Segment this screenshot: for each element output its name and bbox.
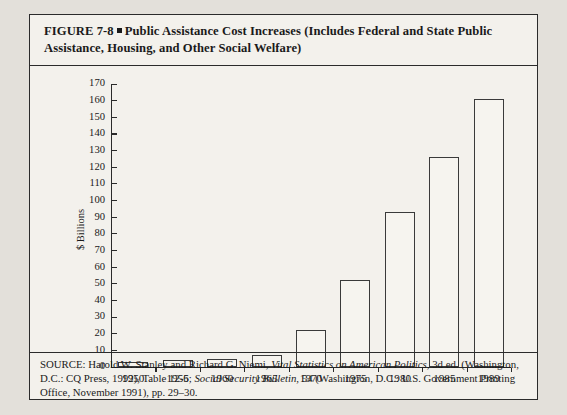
figure-label: FIGURE 7-8 [44, 24, 114, 38]
y-axis-tick-label: 120 [61, 162, 105, 173]
page-canvas: FIGURE 7-8Public Assistance Cost Increas… [0, 0, 567, 415]
y-axis-tick [111, 283, 117, 284]
y-axis-tick-label: 90 [61, 212, 105, 223]
y-axis-tick [111, 183, 117, 184]
y-axis-tick-label: 130 [61, 145, 105, 156]
y-axis-tick [111, 200, 117, 201]
figure-title-band: FIGURE 7-8Public Assistance Cost Increas… [30, 15, 537, 66]
y-axis-tick-label: 70 [61, 245, 105, 256]
y-axis-line [111, 84, 112, 368]
y-axis-tick-label: 50 [61, 278, 105, 289]
y-axis-tick-label: 100 [61, 195, 105, 206]
y-axis-tick [111, 150, 117, 151]
chart-plot-area: $ Billions 01020304050607080901001101201… [30, 66, 537, 352]
bar-1980 [385, 212, 415, 367]
y-axis-tick-label: 60 [61, 262, 105, 273]
y-axis-tick [111, 100, 117, 101]
y-axis-tick [111, 300, 117, 301]
y-axis-tick [111, 167, 117, 168]
y-axis-tick-label: 110 [61, 178, 105, 189]
y-axis-tick [111, 267, 117, 268]
y-axis-tick [111, 133, 117, 134]
bullet-square-icon [117, 28, 122, 33]
page-title: FIGURE 7-8Public Assistance Cost Increas… [44, 23, 523, 56]
y-axis-tick-label: 170 [61, 78, 105, 89]
source-prefix: SOURCE: Harold W. Stanley and Richard G.… [40, 358, 269, 370]
y-axis-tick-label: 30 [61, 311, 105, 322]
bar-1989 [474, 99, 504, 367]
source-work-title-2: Social Security Bulletin, [194, 372, 299, 384]
y-axis-tick-label: 20 [61, 328, 105, 339]
y-axis-tick-label: 160 [61, 95, 105, 106]
y-axis-tick [111, 217, 117, 218]
bar-1985 [429, 157, 459, 367]
y-axis-tick [111, 317, 117, 318]
source-work-title-1: Vital Statistics on American Politics, [271, 358, 429, 370]
figure-box: FIGURE 7-8Public Assistance Cost Increas… [29, 14, 538, 400]
y-axis-tick-label: 40 [61, 295, 105, 306]
y-axis-tick [111, 84, 117, 85]
source-text: SOURCE: Harold W. Stanley and Richard G.… [40, 358, 527, 399]
y-axis-tick [111, 250, 117, 251]
y-axis-tick [111, 333, 117, 334]
y-axis-tick-label: 150 [61, 112, 105, 123]
y-axis-tick-label: 80 [61, 228, 105, 239]
y-axis-tick-label: 140 [61, 128, 105, 139]
y-axis-tick [111, 350, 117, 351]
source-note: SOURCE: Harold W. Stanley and Richard G.… [30, 352, 537, 399]
y-axis-tick [111, 233, 117, 234]
y-axis-tick [111, 117, 117, 118]
